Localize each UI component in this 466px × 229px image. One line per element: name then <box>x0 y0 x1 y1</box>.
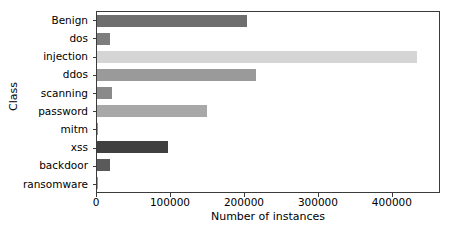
y-tick-mark <box>93 93 97 94</box>
bar-row <box>97 66 439 84</box>
bar-backdoor <box>97 159 110 171</box>
y-tick-mark <box>93 148 97 149</box>
bar-xss <box>97 141 168 153</box>
y-tick-label: backdoor <box>20 157 92 175</box>
y-tick-mark <box>93 166 97 167</box>
bar-row <box>97 156 439 174</box>
y-axis-tick-labels: Benigndosinjectionddosscanningpasswordmi… <box>20 11 92 193</box>
plot-area <box>96 11 440 193</box>
y-tick-label: Benign <box>20 11 92 29</box>
bar-row <box>97 30 439 48</box>
y-tick-label: password <box>20 102 92 120</box>
bar-chart-figure: Class Benigndosinjectionddosscanningpass… <box>0 0 466 229</box>
y-tick-label: scanning <box>20 84 92 102</box>
bar-scanning <box>97 87 112 99</box>
bar-row <box>97 174 439 192</box>
bar-dos <box>97 33 110 45</box>
bar-password <box>97 105 207 117</box>
y-tick-mark <box>93 20 97 21</box>
x-tick-label: 400000 <box>372 197 412 208</box>
bar-row <box>97 138 439 156</box>
bar-row <box>97 120 439 138</box>
y-axis-title-text: Class <box>7 82 20 111</box>
bar-row <box>97 12 439 30</box>
y-tick-mark <box>93 75 97 76</box>
bar-ddos <box>97 69 256 81</box>
x-tick-label: 200000 <box>224 197 264 208</box>
bar-row <box>97 48 439 66</box>
y-tick-label: mitm <box>20 120 92 138</box>
y-tick-mark <box>93 129 97 130</box>
y-tick-mark <box>93 38 97 39</box>
x-tick-label: 300000 <box>298 197 338 208</box>
y-tick-label: injection <box>20 47 92 65</box>
y-tick-label: xss <box>20 138 92 156</box>
bar-benign <box>97 15 247 27</box>
y-tick-label: ransomware <box>20 175 92 193</box>
bar-row <box>97 84 439 102</box>
y-tick-mark <box>93 184 97 185</box>
y-tick-label: dos <box>20 29 92 47</box>
x-tick-label: 100000 <box>150 197 190 208</box>
y-tick-mark <box>93 57 97 58</box>
y-tick-label: ddos <box>20 66 92 84</box>
bar-row <box>97 102 439 120</box>
x-tick-label: 0 <box>93 197 100 208</box>
bar-mitm <box>97 123 98 135</box>
bar-ransomware <box>97 177 98 189</box>
bar-injection <box>97 51 417 63</box>
bar-series <box>97 12 439 192</box>
x-axis-title: Number of instances <box>96 210 440 223</box>
y-tick-mark <box>93 111 97 112</box>
